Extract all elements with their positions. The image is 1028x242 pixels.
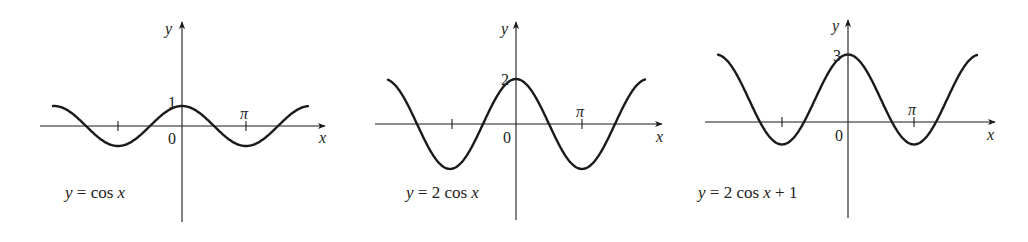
x-axis-label: x <box>318 129 326 146</box>
equation-label: y = 2 cos x <box>404 183 479 202</box>
panel-2cos-x-plus-1: y x 0 3 π y = 2 cos x + 1 <box>696 17 995 218</box>
pi-label: π <box>576 103 585 120</box>
x-axis-label: x <box>655 128 663 145</box>
panel-cos-x: y x 0 1 π y = cos x <box>40 20 326 222</box>
pi-label: π <box>908 101 917 118</box>
equation-label: y = cos x <box>63 183 126 202</box>
y-max-label: 1 <box>168 94 176 111</box>
y-axis-label: y <box>499 20 509 38</box>
origin-label: 0 <box>168 130 176 147</box>
y-axis-label: y <box>163 20 173 38</box>
origin-label: 0 <box>503 129 511 146</box>
panel-2cos-x: y x 0 2 π y = 2 cos x <box>375 20 663 220</box>
y-max-label: 2 <box>501 71 509 88</box>
y-axis-label: y <box>830 17 840 35</box>
pi-label: π <box>240 105 249 122</box>
y-max-label: 3 <box>833 47 841 64</box>
equation-label: y = 2 cos x + 1 <box>696 183 797 202</box>
cosine-graphs-figure: y x 0 1 π y = cos x y x 0 2 π y = 2 cos … <box>0 0 1028 242</box>
x-axis-label: x <box>986 126 994 143</box>
origin-label: 0 <box>835 127 843 144</box>
